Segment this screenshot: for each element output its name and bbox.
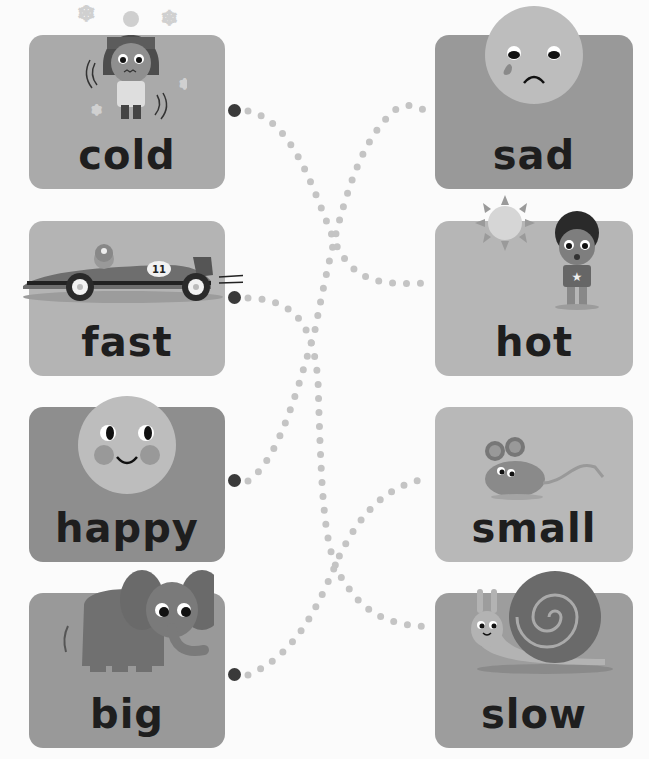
trail-happy-to-sad [248, 106, 428, 481]
sad-face-icon [484, 5, 584, 105]
trail-fast-to-slow [248, 298, 428, 627]
word-label: big [29, 694, 225, 734]
word-label: slow [435, 694, 633, 734]
sweating-boy-with-sun-icon: ★ [465, 191, 625, 321]
elephant-icon [54, 566, 214, 686]
mouse-icon [485, 437, 615, 507]
trail-cold-to-hot [248, 111, 428, 284]
word-label: small [435, 508, 633, 548]
card-small[interactable]: small [435, 407, 633, 562]
card-slow[interactable]: slow [435, 593, 633, 748]
svg-text:❄: ❄ [91, 102, 103, 118]
card-hot[interactable]: ★ hot [435, 221, 633, 376]
word-label: happy [29, 508, 225, 548]
word-label: fast [29, 322, 225, 362]
word-label: sad [435, 135, 633, 175]
race-car-icon: 11 [13, 231, 243, 311]
svg-text:❄: ❄ [161, 6, 178, 30]
start-dot-fast[interactable] [228, 291, 241, 304]
start-dot-happy[interactable] [228, 474, 241, 487]
start-dot-big[interactable] [228, 668, 241, 681]
start-dot-cold[interactable] [228, 104, 241, 117]
word-label: cold [29, 135, 225, 175]
card-happy[interactable]: happy [29, 407, 225, 562]
card-cold[interactable]: ❄ ❄ ❄ ❄ cold [29, 35, 225, 189]
shivering-girl-icon: ❄ ❄ ❄ ❄ [77, 5, 187, 135]
svg-text:★: ★ [572, 270, 583, 284]
svg-text:❄: ❄ [179, 76, 187, 92]
card-sad[interactable]: sad [435, 35, 633, 189]
card-fast[interactable]: 11 fast [29, 221, 225, 376]
svg-text:11: 11 [152, 264, 166, 275]
happy-face-icon [77, 395, 177, 495]
word-label: hot [435, 322, 633, 362]
card-big[interactable]: big [29, 593, 225, 748]
snail-icon [465, 569, 615, 679]
svg-text:❄: ❄ [77, 5, 95, 26]
